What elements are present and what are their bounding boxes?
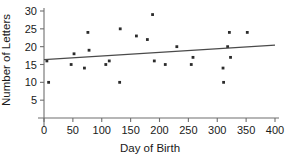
data-point xyxy=(190,63,193,66)
data-point xyxy=(108,60,111,63)
x-tick-label: 50 xyxy=(67,124,79,136)
data-point xyxy=(119,27,122,30)
data-point xyxy=(135,35,138,38)
data-point xyxy=(73,52,76,55)
scatter-plot-figure: 51015202530 050100150200250300350400 Day… xyxy=(0,0,287,159)
data-point xyxy=(104,63,107,66)
y-tick-label: 25 xyxy=(25,23,37,35)
x-tick-label: 200 xyxy=(150,124,168,136)
data-point xyxy=(246,31,249,34)
x-axis-title: Day of Birth xyxy=(120,142,180,154)
y-tick-label: 20 xyxy=(25,41,37,53)
data-point xyxy=(86,31,89,34)
y-tick-label: 15 xyxy=(25,59,37,71)
data-point xyxy=(118,81,121,84)
y-axis: 51015202530 xyxy=(25,5,44,127)
data-point xyxy=(153,60,156,63)
data-point xyxy=(146,38,149,41)
y-axis-title: Number of Letters xyxy=(0,14,12,106)
data-point xyxy=(164,63,167,66)
x-tick-label: 400 xyxy=(266,124,284,136)
x-tick-label: 150 xyxy=(121,124,139,136)
x-tick-label: 350 xyxy=(237,124,255,136)
data-point xyxy=(222,81,225,84)
y-tick-label: 30 xyxy=(25,5,37,17)
data-point xyxy=(47,81,50,84)
data-point xyxy=(175,45,178,48)
y-tick-label: 5 xyxy=(31,94,37,106)
x-axis: 050100150200250300350400 xyxy=(38,118,284,136)
plot-canvas: 51015202530 050100150200250300350400 Day… xyxy=(0,0,287,159)
trend-line-layer xyxy=(44,45,275,59)
data-point xyxy=(192,56,195,59)
x-tick-label: 250 xyxy=(179,124,197,136)
data-point xyxy=(222,67,225,70)
data-point xyxy=(229,56,232,59)
x-tick-label: 100 xyxy=(93,124,111,136)
y-tick-label: 10 xyxy=(25,76,37,88)
data-point xyxy=(70,63,73,66)
trend-line xyxy=(44,45,275,59)
data-point xyxy=(83,67,86,70)
data-point xyxy=(88,49,91,52)
x-tick-label: 300 xyxy=(208,124,226,136)
data-point xyxy=(228,31,231,34)
data-point xyxy=(151,13,154,16)
x-tick-label: 0 xyxy=(41,124,47,136)
